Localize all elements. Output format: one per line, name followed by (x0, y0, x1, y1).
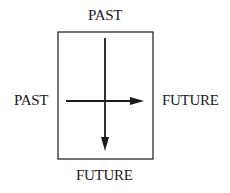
label-right-future: FUTURE (162, 92, 219, 108)
vertical-arrow (101, 38, 109, 151)
label-bottom-future: FUTURE (76, 167, 133, 183)
label-left-past: PAST (14, 92, 48, 108)
arrow-right-icon (130, 97, 144, 105)
arrow-down-icon (101, 137, 109, 151)
label-top-past: PAST (88, 7, 122, 23)
